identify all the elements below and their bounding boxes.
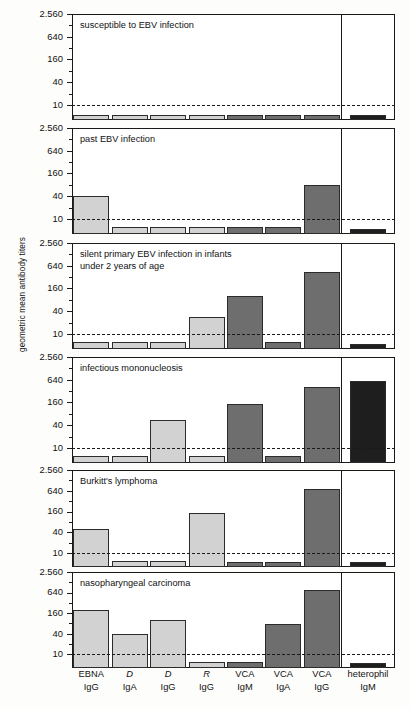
- bar-d-iga: [112, 561, 148, 567]
- panel-title: nasopharyngeal carcinoma: [80, 578, 190, 590]
- bar-vca-iga: [265, 227, 301, 234]
- bar-vca-igm: [227, 227, 263, 234]
- bar-vca-igm: [227, 296, 263, 349]
- bar-d-igg: [150, 115, 186, 120]
- cutoff-line: [72, 105, 395, 106]
- y-tick-label: 2.560: [40, 8, 63, 19]
- heterophil-divider: [341, 572, 342, 668]
- x-axis-labels: EBNAIgGDIgADIgGRIgGVCAIgMVCAIgAVCAIgGhet…: [72, 668, 395, 708]
- bar-d-igg: [150, 227, 186, 234]
- y-tick-label: 160: [47, 53, 63, 64]
- bar-vca-iga: [265, 115, 301, 120]
- bar-r-igg: [189, 456, 225, 463]
- y-tick-label: 2.560: [40, 464, 63, 475]
- bar-vca-igg: [304, 272, 340, 349]
- bar-d-iga: [112, 456, 148, 463]
- bar-vca-iga: [265, 624, 301, 669]
- chart-panel-4: 10401606402.560infectious mononucleosis: [72, 357, 395, 463]
- bar-d-iga: [112, 342, 148, 349]
- y-tick-label: 2.560: [40, 122, 63, 133]
- bar-r-igg: [189, 115, 225, 120]
- bar-ebna-igg: [73, 610, 109, 668]
- ebv-serology-figure: geometric mean antibody titers 104016064…: [0, 0, 410, 708]
- chart-panel-1: 10401606402.560susceptible to EBV infect…: [72, 14, 395, 120]
- bar-r-igg: [189, 513, 225, 567]
- y-tick-label: 160: [47, 607, 63, 618]
- bar-d-igg: [150, 620, 186, 668]
- y-tick-label: 160: [47, 167, 63, 178]
- bar-vca-iga: [265, 562, 301, 567]
- chart-panel-3: 10401606402.560silent primary EBV infect…: [72, 243, 395, 349]
- y-axis: 10401606402.560: [0, 128, 72, 234]
- y-tick-label: 40: [53, 628, 63, 639]
- bar-heterophil-igm: [350, 381, 386, 463]
- bar-vca-iga: [265, 456, 301, 463]
- y-tick-label: 160: [47, 282, 63, 293]
- panel-title: past EBV infection: [80, 134, 155, 146]
- y-tick-label: 10: [53, 99, 63, 110]
- cutoff-line: [72, 654, 395, 655]
- bar-vca-igm: [227, 115, 263, 120]
- cutoff-line: [72, 334, 395, 335]
- y-tick-label: 10: [53, 442, 63, 453]
- y-tick-label: 640: [47, 374, 63, 385]
- chart-panel-6: 10401606402.560nasopharyngeal carcinoma: [72, 572, 395, 668]
- y-axis: 10401606402.560: [0, 14, 72, 120]
- chart-panel-5: 10401606402.560Burkitt's lymphoma: [72, 470, 395, 567]
- bar-ebna-igg: [73, 529, 109, 567]
- bar-vca-igg: [304, 185, 340, 234]
- cutoff-line: [72, 448, 395, 449]
- y-tick-label: 160: [47, 505, 63, 516]
- bar-d-iga: [112, 115, 148, 120]
- bar-ebna-igg: [73, 196, 109, 234]
- bar-vca-igm: [227, 404, 263, 463]
- y-tick-label: 40: [53, 76, 63, 87]
- panel-title: Burkitt's lymphoma: [80, 476, 157, 488]
- heterophil-divider: [341, 470, 342, 567]
- bar-d-iga: [112, 227, 148, 234]
- bar-heterophil-igm: [350, 562, 386, 567]
- y-tick-label: 10: [53, 213, 63, 224]
- panel-title: susceptible to EBV infection: [80, 20, 194, 32]
- heterophil-divider: [341, 243, 342, 349]
- bar-d-igg: [150, 420, 186, 463]
- y-axis: 10401606402.560: [0, 243, 72, 349]
- bar-ebna-igg: [73, 115, 109, 120]
- heterophil-divider: [341, 14, 342, 120]
- bar-d-igg: [150, 561, 186, 567]
- y-tick-label: 160: [47, 396, 63, 407]
- bar-d-iga: [112, 634, 148, 668]
- y-tick-label: 10: [53, 648, 63, 659]
- bar-heterophil-igm: [350, 344, 386, 349]
- chart-panel-2: 10401606402.560past EBV infection: [72, 128, 395, 234]
- y-tick-label: 10: [53, 547, 63, 558]
- y-tick-label: 640: [47, 145, 63, 156]
- y-tick-label: 40: [53, 190, 63, 201]
- bar-vca-igg: [304, 115, 340, 120]
- x-label-isotype: IgM: [333, 681, 403, 694]
- panel-title: infectious mononucleosis: [80, 363, 183, 375]
- y-tick-label: 10: [53, 328, 63, 339]
- y-tick-label: 640: [47, 31, 63, 42]
- bar-vca-igg: [304, 387, 340, 463]
- bar-vca-igg: [304, 590, 340, 668]
- y-axis: 10401606402.560: [0, 470, 72, 567]
- y-axis: 10401606402.560: [0, 572, 72, 668]
- bar-d-igg: [150, 342, 186, 349]
- y-tick-label: 40: [53, 526, 63, 537]
- x-label-heterophil-igm: heterophilIgM: [333, 668, 403, 694]
- cutoff-line: [72, 219, 395, 220]
- bar-vca-igm: [227, 562, 263, 567]
- cutoff-line: [72, 553, 395, 554]
- bar-ebna-igg: [73, 456, 109, 463]
- y-tick-label: 640: [47, 260, 63, 271]
- y-tick-label: 640: [47, 586, 63, 597]
- y-tick-label: 40: [53, 419, 63, 430]
- heterophil-divider: [341, 128, 342, 234]
- bar-heterophil-igm: [350, 115, 386, 120]
- panel-title: silent primary EBV infection in infants …: [80, 249, 232, 272]
- bar-vca-igg: [304, 489, 340, 567]
- y-tick-label: 2.560: [40, 566, 63, 577]
- bar-heterophil-igm: [350, 229, 386, 234]
- bar-vca-iga: [265, 342, 301, 349]
